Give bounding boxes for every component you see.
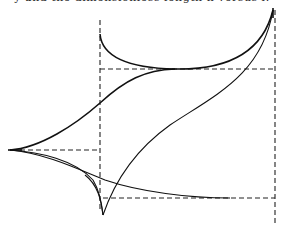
main-s-curve: [10, 69, 175, 150]
lower-left-branch-inner: [10, 150, 230, 198]
rising-thin-curve: [103, 10, 273, 215]
diagram-canvas: [0, 0, 284, 238]
upper-u-curve: [100, 10, 273, 69]
lower-left-branch-outer: [10, 150, 103, 215]
